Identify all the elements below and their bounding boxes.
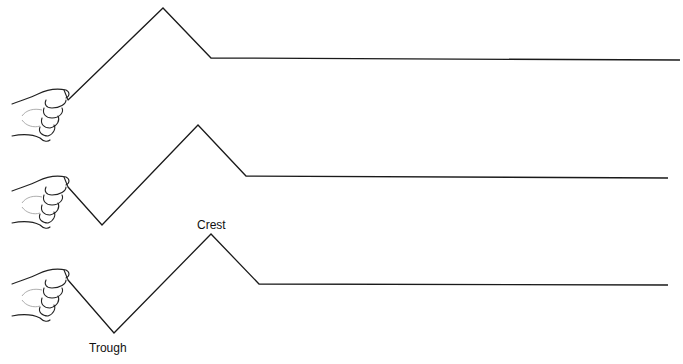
- hand-1-icon: [12, 89, 69, 141]
- crest-label: Crest: [197, 218, 226, 232]
- hands: [12, 89, 69, 321]
- hand-3-icon: [12, 269, 69, 321]
- wave-2-rope: [68, 125, 668, 225]
- hand-2-icon: [12, 176, 69, 228]
- wave-3-rope: [68, 234, 668, 333]
- wave-1-rope: [68, 8, 680, 100]
- wave-diagram: [0, 0, 683, 364]
- wave-lines: [68, 8, 680, 333]
- trough-label: Trough: [89, 341, 127, 355]
